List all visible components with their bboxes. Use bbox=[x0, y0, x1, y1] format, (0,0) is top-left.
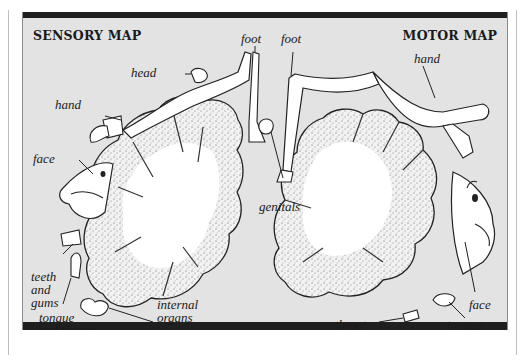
sensory-hemisphere bbox=[60, 52, 274, 316]
sensory-homunculus-arm bbox=[90, 126, 109, 143]
sensory-label-and-throat: and throat bbox=[39, 323, 93, 330]
sensory-label-head: head bbox=[131, 66, 156, 79]
motor-homunculus-face bbox=[451, 172, 494, 274]
right-margin-line bbox=[516, 10, 517, 355]
motor-homunculus-throat bbox=[403, 310, 419, 322]
sensory-homunculus-teeth bbox=[61, 230, 81, 246]
motor-label-tongue: tongue bbox=[447, 318, 482, 330]
sensory-homunculus-face bbox=[60, 163, 113, 219]
sensory-label-gums: gums bbox=[31, 296, 58, 309]
motor-label-foot: foot bbox=[281, 32, 301, 45]
sensory-label-hand: hand bbox=[55, 98, 81, 111]
sensory-homunculus-head bbox=[191, 68, 207, 82]
left-margin-line bbox=[8, 10, 9, 355]
motor-label-face: face bbox=[469, 298, 491, 311]
motor-map-title: MOTOR MAP bbox=[403, 28, 497, 43]
sensory-homunculus-organs bbox=[81, 299, 108, 316]
sensory-label-face: face bbox=[33, 152, 55, 165]
motor-label-throat: throat bbox=[335, 318, 366, 330]
homunculus-figure-panel: SENSORY MAP MOTOR MAP foot head hand fac… bbox=[22, 12, 508, 330]
sensory-homunculus-genitals bbox=[259, 119, 273, 134]
sensory-label-foot: foot bbox=[241, 32, 261, 45]
motor-homunculus-foot bbox=[277, 170, 293, 182]
sensory-map-title: SENSORY MAP bbox=[33, 28, 141, 43]
sensory-homunculus-tongue bbox=[71, 253, 81, 278]
sensory-label-genitals: genitals bbox=[259, 200, 300, 213]
sensory-label-organs: organs bbox=[157, 311, 193, 324]
motor-hemisphere bbox=[274, 72, 494, 322]
motor-label-hand: hand bbox=[414, 52, 440, 65]
motor-homunculus-hand bbox=[443, 124, 473, 158]
